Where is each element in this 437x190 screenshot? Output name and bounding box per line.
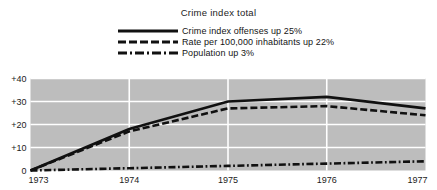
x-axis-tick-label: 1974 (119, 175, 139, 185)
y-axis-tick-label: 0 (21, 166, 26, 176)
x-axis-tick-label: 1975 (218, 175, 238, 185)
chart-figure: Crime index total Crime index offenses u… (0, 0, 437, 190)
x-axis-tick-label: 1976 (317, 175, 337, 185)
y-axis-tick-label: +30 (11, 97, 26, 107)
y-axis-tick-label: +10 (11, 143, 26, 153)
x-axis-tick-label: 1977 (407, 175, 427, 185)
y-axis-tick-label: +40 (11, 74, 26, 84)
x-axis-tick-label: 1973 (28, 175, 48, 185)
chart-plot-area: 0+10+20+30+4019731974197519761977 (0, 0, 437, 190)
y-axis-tick-label: +20 (11, 120, 26, 130)
